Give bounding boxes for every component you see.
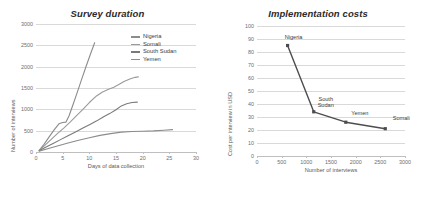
y-axis-tick-label: 0 [251,153,254,159]
legend-item-south-sudan[interactable]: South Sudan [131,48,177,56]
x-axis-tick-label: 5 [61,155,64,161]
y-axis-tick-label: 2500 [21,42,33,48]
series-line-south-sudan [39,102,137,151]
x-axis-tick-mark [405,156,406,158]
legend-swatch-icon [131,51,140,53]
legend-swatch-icon [131,44,140,46]
point-label-south-sudan: SouthSudan [318,95,334,107]
y-axis-tick-label: 2000 [21,64,33,70]
series-line-nigeria [39,43,94,151]
legend-swatch-icon [131,59,140,61]
y-axis-tick-label: 1000 [21,106,33,112]
y-axis-tick-label: 90 [248,36,254,42]
x-axis-tick-label: 500 [277,159,286,165]
legend-item-nigeria[interactable]: Nigeria [131,33,177,41]
y-axis-tick-label: 100 [245,23,254,29]
x-axis-tick-label: 2500 [374,159,386,165]
survey-duration-plot-area: 050010001500200025003000051015202530 Day… [36,24,196,152]
x-axis-tick-label: 2000 [350,159,362,165]
legend-item-label: Somali [143,41,161,49]
legend-item-label: Nigeria [143,33,161,41]
y-axis-tick-label: 30 [248,114,254,120]
x-axis-tick-mark [282,156,283,158]
x-axis-tick-label: 1500 [325,159,337,165]
x-axis-tick-mark [63,152,64,154]
x-axis-tick-mark [116,152,117,154]
x-axis-tick-label: 30 [193,155,199,161]
x-axis-tick-label: 15 [113,155,119,161]
implementation-costs-figure: Implementation costs 0102030405060708090… [215,0,421,202]
x-axis-tick-mark [36,152,37,154]
chart-title-survey-duration: Survey duration [0,8,215,19]
y-axis-tick-label: 70 [248,62,254,68]
chart-title-implementation-costs: Implementation costs [215,8,421,19]
x-axis-tick-mark [196,152,197,154]
y-axis-tick-label: 3000 [21,21,33,27]
legend-item-label: South Sudan [143,48,177,56]
y-axis-tick-label: 10 [248,140,254,146]
y-axis-tick-label: 50 [248,88,254,94]
point-label-yemen: Yemen [351,110,368,116]
x-axis-tick-label: 1000 [300,159,312,165]
survey-duration-figure: Survey duration 050010001500200025003000… [0,0,215,202]
x-axis-tick-mark [89,152,90,154]
legend-item-label: Yemen [143,56,161,64]
x-axis-tick-mark [306,156,307,158]
legend-survey-duration: NigeriaSomaliSouth SudanYemen [131,33,177,63]
y-axis-tick-label: 20 [248,127,254,133]
point-label-nigeria: Nigeria [285,33,303,39]
y-axis-tick-label: 40 [248,101,254,107]
x-axis-tick-mark [143,152,144,154]
y-axis-title-right: Cost per interview in USD [227,92,233,156]
y-axis-title-left: Number of interviews [10,99,16,152]
x-axis-tick-mark [380,156,381,158]
x-axis-title-left: Days of data collection [36,163,196,169]
point-label-somali: Somali [393,114,410,120]
x-axis-tick-label: 20 [140,155,146,161]
data-point-labels: NigeriaSouthSudanYemenSomali [257,26,405,156]
legend-item-yemen[interactable]: Yemen [131,56,177,64]
legend-item-somali[interactable]: Somali [131,41,177,49]
x-axis-tick-label: 0 [256,159,259,165]
implementation-costs-plot-area: 0102030405060708090100050010001500200025… [257,26,405,156]
x-axis-tick-mark [331,156,332,158]
y-axis-tick-label: 80 [248,49,254,55]
x-axis-tick-label: 25 [166,155,172,161]
x-axis-tick-mark [356,156,357,158]
x-axis-tick-label: 10 [86,155,92,161]
x-axis-tick-mark [169,152,170,154]
y-axis-tick-label: 500 [24,128,33,134]
legend-swatch-icon [131,36,140,38]
x-axis-tick-label: 3000 [399,159,411,165]
y-axis-tick-label: 1500 [21,85,33,91]
x-axis-tick-label: 0 [35,155,38,161]
series-line-somali [39,77,138,151]
y-axis-tick-label: 0 [30,149,33,155]
x-axis-tick-mark [257,156,258,158]
y-axis-tick-label: 60 [248,75,254,81]
x-axis-title-right: Number of interviews [257,167,405,173]
